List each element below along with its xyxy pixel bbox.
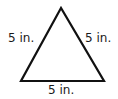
left-side-label: 5 in. (8, 32, 34, 44)
right-side-label: 5 in. (85, 32, 111, 44)
bottom-side-label: 5 in. (48, 84, 74, 96)
